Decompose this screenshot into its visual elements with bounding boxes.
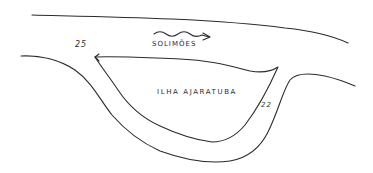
flow-direction-arrow-icon <box>154 32 210 40</box>
island-outline <box>95 57 278 142</box>
north-riverbank <box>32 15 348 43</box>
island-name-label: ILHA AJARATUBA <box>157 88 237 96</box>
river-name-label: SOLIMÕES <box>152 40 196 48</box>
sketch-map <box>0 0 373 173</box>
marker-label-22: 22 <box>261 101 272 109</box>
marker-label-25: 25 <box>75 40 87 49</box>
south-riverbank <box>21 56 355 162</box>
